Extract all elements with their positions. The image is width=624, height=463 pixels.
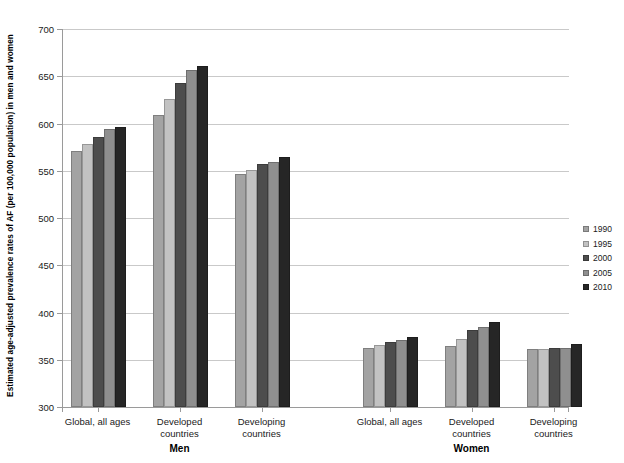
bar [153,115,164,407]
y-axis-tick-label: 500 [38,213,54,224]
y-axis-tick-label: 400 [38,307,54,318]
x-axis-tick [554,407,555,412]
gridline [63,124,569,125]
legend: 19901995200020052010 [583,222,624,295]
legend-swatch-icon [583,241,589,247]
bar [445,346,456,407]
bar [374,345,385,407]
legend-item-1990[interactable]: 1990 [583,222,624,237]
y-axis-tick [57,313,63,314]
bar [164,99,175,407]
y-axis-title-text: Estimated age-adjusted prevalence rates … [6,34,15,397]
legend-item-2000[interactable]: 2000 [583,251,624,266]
x-axis-group-label: Developing countries [509,416,599,439]
x-axis-group-label: Global, all ages [345,416,435,428]
gridline [63,265,569,266]
x-axis-group-label: Developed countries [135,416,225,439]
y-axis-tick [57,29,63,30]
bar [197,66,208,407]
x-axis-group-label: Developing countries [217,416,307,439]
plot-area: 300350400450500550600650700 [62,29,568,407]
bar [235,174,246,407]
bar [478,327,489,407]
legend-item-label: 2010 [593,282,612,292]
bar [279,157,290,407]
y-axis-tick [57,218,63,219]
bar [489,322,500,407]
bar [527,349,538,407]
y-axis-tick [57,124,63,125]
panel-label: Men [130,443,230,454]
y-axis-tick-label: 600 [38,118,54,129]
y-axis-tick-label: 650 [38,71,54,82]
legend-item-label: 1990 [593,224,612,234]
bar [538,349,549,407]
bar [257,164,268,407]
bar [363,348,374,407]
bar [396,340,407,407]
bar-chart: Estimated age-adjusted prevalence rates … [0,0,624,463]
bar [571,344,582,407]
bar [186,70,197,407]
bar [104,129,115,407]
bar [71,151,82,407]
gridline [63,171,569,172]
bar [82,144,93,407]
y-axis-tick [57,76,63,77]
legend-item-2005[interactable]: 2005 [583,266,624,281]
legend-item-label: 1995 [593,239,612,249]
y-axis-tick [57,171,63,172]
x-axis-group-label: Developed countries [427,416,517,439]
gridline [63,76,569,77]
y-axis-tick-label: 700 [38,24,54,35]
bar [93,137,104,407]
bar [467,330,478,407]
y-axis-tick [57,360,63,361]
y-axis-tick [57,265,63,266]
bar [115,127,126,407]
x-axis-tick [390,407,391,412]
legend-swatch-icon [583,255,589,261]
legend-item-label: 2005 [593,268,612,278]
x-axis-tick [180,407,181,412]
y-axis-title: Estimated age-adjusted prevalence rates … [0,0,20,430]
legend-item-label: 2000 [593,253,612,263]
legend-swatch-icon [583,284,589,290]
y-axis-tick-label: 450 [38,260,54,271]
x-axis-line [62,407,568,408]
x-axis-tick [568,407,569,412]
x-axis-tick [62,407,63,412]
bar [385,342,396,407]
bar [407,337,418,407]
bar [175,83,186,407]
bar [246,170,257,407]
gridline [63,29,569,30]
legend-swatch-icon [583,270,589,276]
legend-item-1995[interactable]: 1995 [583,237,624,252]
y-axis-tick-label: 550 [38,165,54,176]
legend-swatch-icon [583,226,589,232]
x-axis-tick [262,407,263,412]
bar [549,348,560,407]
legend-item-2010[interactable]: 2010 [583,280,624,295]
x-axis-tick [472,407,473,412]
panel-label: Women [422,443,522,454]
x-axis-group-label: Global, all ages [53,416,143,428]
y-axis-tick-label: 300 [38,402,54,413]
y-axis-tick-label: 350 [38,354,54,365]
gridline [63,313,569,314]
bar [456,339,467,407]
bar [560,348,571,407]
gridline [63,218,569,219]
x-axis-tick [98,407,99,412]
bar [268,162,279,407]
